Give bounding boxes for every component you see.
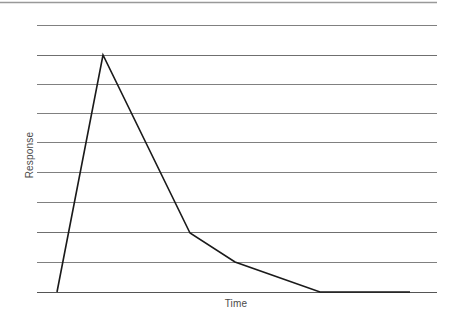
- series-response: [57, 55, 410, 292]
- response-curve: [57, 55, 410, 292]
- x-axis-label: Time: [196, 298, 276, 309]
- plot-area: [0, 0, 458, 324]
- chart-figure: Response Time: [0, 0, 458, 324]
- y-axis-label: Response: [24, 110, 35, 200]
